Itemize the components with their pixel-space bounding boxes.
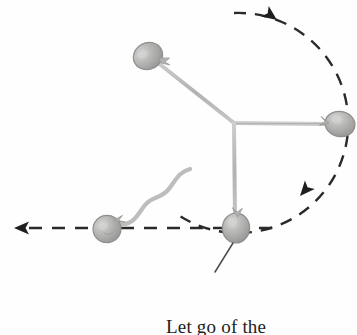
ball-bottom-release-point bbox=[221, 207, 251, 244]
arrowhead-tangent-left bbox=[14, 222, 29, 235]
caption-leader-line bbox=[215, 243, 233, 272]
arrowhead-top-clockwise bbox=[261, 6, 281, 25]
string-to-bottom-ball bbox=[234, 123, 235, 219]
ball-right bbox=[318, 108, 357, 139]
caption-line-1: Let go of the bbox=[166, 316, 266, 335]
caption-text-block: Let go of the string here bbox=[166, 272, 266, 335]
ball-upper-left bbox=[129, 36, 173, 79]
string-to-right-ball bbox=[234, 123, 331, 124]
ball-body bbox=[129, 37, 168, 74]
arrowhead-lower-right-clockwise bbox=[295, 180, 315, 200]
ball-body bbox=[221, 212, 250, 244]
string-to-upper-left-ball bbox=[157, 62, 234, 123]
ball-body bbox=[323, 109, 357, 139]
physics-diagram-figure: Let go of the string here bbox=[0, 0, 357, 335]
trailing-wavy-string bbox=[120, 169, 190, 224]
string-group bbox=[157, 62, 331, 219]
